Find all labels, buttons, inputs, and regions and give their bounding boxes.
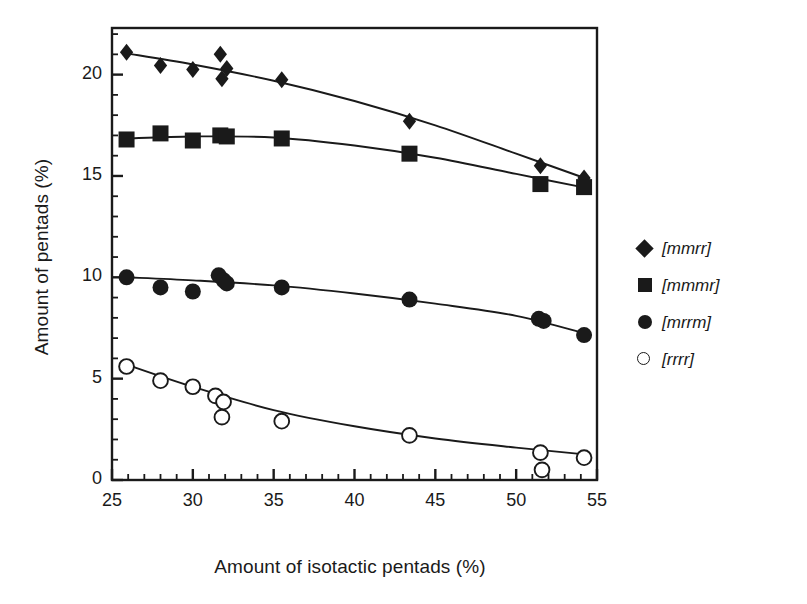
data-point-marker [219, 128, 235, 144]
data-point-marker [402, 428, 417, 443]
data-markers [119, 44, 593, 477]
legend-label: [mmmr] [662, 277, 720, 294]
data-point-marker [576, 327, 592, 343]
data-point-marker [533, 445, 548, 460]
chart-legend: [mmrr] [mmmr] [mrrm] [rrrr] [636, 238, 720, 369]
x-tick-label: 55 [585, 490, 609, 511]
data-point-marker [577, 450, 592, 465]
data-point-marker [216, 395, 231, 410]
x-tick-label: 25 [100, 490, 124, 511]
data-point-marker [401, 146, 417, 162]
legend-item-mmrr: [mmrr] [636, 238, 720, 258]
filled-square-icon [636, 277, 653, 294]
legend-item-rrrr: [rrrr] [636, 349, 720, 369]
data-point-marker [215, 410, 230, 425]
y-tick-label: 5 [64, 367, 102, 388]
legend-item-mrrm: [mrrm] [636, 312, 720, 332]
data-point-marker [274, 130, 290, 146]
x-axis-title: Amount of isotactic pentads (%) [0, 556, 700, 578]
trend-line [123, 363, 587, 454]
y-tick-label: 0 [64, 468, 102, 489]
y-tick-label: 10 [64, 265, 102, 286]
y-tick-label: 20 [64, 63, 102, 84]
data-point-marker [274, 279, 290, 295]
filled-circle-icon [636, 314, 653, 331]
data-point-marker [120, 44, 133, 61]
legend-label: [mmrr] [662, 240, 711, 257]
data-point-marker [214, 46, 227, 63]
x-tick-label: 45 [423, 490, 447, 511]
x-tick-label: 50 [504, 490, 528, 511]
data-point-marker [153, 279, 169, 295]
y-axis-title: Amount of pentads (%) [31, 27, 53, 487]
data-point-marker [274, 414, 289, 429]
y-tick-label: 15 [64, 164, 102, 185]
data-point-marker [153, 125, 169, 141]
plot-frame [112, 28, 597, 480]
data-point-marker [535, 462, 550, 477]
open-circle-icon [636, 351, 653, 368]
data-point-marker [185, 379, 200, 394]
data-point-marker [219, 275, 235, 291]
legend-item-mmmr: [mmmr] [636, 275, 720, 295]
legend-label: [mrrm] [662, 314, 711, 331]
x-tick-label: 35 [262, 490, 286, 511]
data-point-marker [185, 132, 201, 148]
data-point-marker [119, 131, 135, 147]
data-point-marker [119, 359, 134, 374]
data-point-marker [275, 71, 288, 88]
x-tick-label: 40 [343, 490, 367, 511]
x-tick-label: 30 [181, 490, 205, 511]
filled-diamond-icon [636, 240, 653, 257]
data-point-marker [576, 179, 592, 195]
data-point-marker [536, 313, 552, 329]
data-point-marker [532, 176, 548, 192]
legend-label: [rrrr] [662, 351, 694, 368]
data-point-marker [153, 373, 168, 388]
data-point-marker [185, 283, 201, 299]
data-point-marker [401, 292, 417, 308]
data-point-marker [119, 269, 135, 285]
